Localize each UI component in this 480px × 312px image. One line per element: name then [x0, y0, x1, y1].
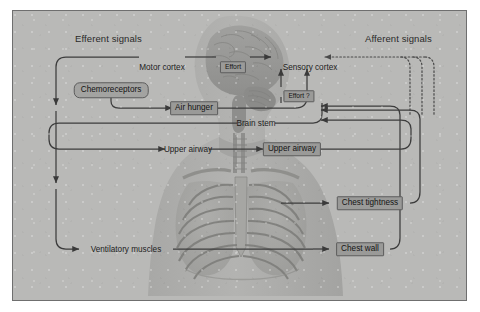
node-air-hunger: Air hunger — [170, 101, 218, 115]
path-chest-tightness-to-brainstem — [321, 110, 420, 203]
node-brain-stem: Brain stem — [236, 119, 275, 128]
path-afferent-dotted-c — [401, 57, 410, 115]
node-effort: Effort — [220, 61, 246, 73]
diagram-frame: Efferent signals Afferent signals Motor … — [12, 10, 467, 301]
path-trunk-to-ventilatory-muscles — [56, 189, 79, 249]
path-upperairway-right-up — [320, 129, 411, 149]
node-chemoreceptors: Chemoreceptors — [74, 82, 149, 98]
node-motor-cortex: Motor cortex — [139, 63, 185, 72]
node-chest-tightness: Chest tightness — [337, 196, 403, 210]
path-upperairway-into-brainstem — [321, 120, 411, 129]
node-ventilatory-muscles: Ventilatory muscles — [91, 245, 162, 254]
node-chest-wall: Chest wall — [336, 242, 384, 256]
path-brainstem-to-upper-airway — [49, 123, 165, 149]
header-afferent-signals: Afferent signals — [365, 33, 432, 44]
path-motor-to-efferent-trunk — [56, 57, 139, 105]
node-effort-query: Effort ? — [283, 90, 314, 102]
path-afferent-dotted-b — [413, 57, 422, 115]
path-chest-wall-to-brainstem — [321, 106, 400, 249]
path-afferent-dotted-a — [425, 57, 434, 115]
path-air-hunger-to-sensory — [216, 69, 307, 108]
header-efferent-signals: Efferent signals — [75, 33, 142, 44]
node-sensory-cortex: Sensory cortex — [283, 63, 338, 72]
node-upper-airway-left: Upper airway — [164, 145, 212, 154]
signal-connectors — [13, 11, 467, 301]
node-upper-airway-right: Upper airway — [263, 142, 321, 156]
path-brainstem-to-effortq-feed — [313, 103, 322, 123]
